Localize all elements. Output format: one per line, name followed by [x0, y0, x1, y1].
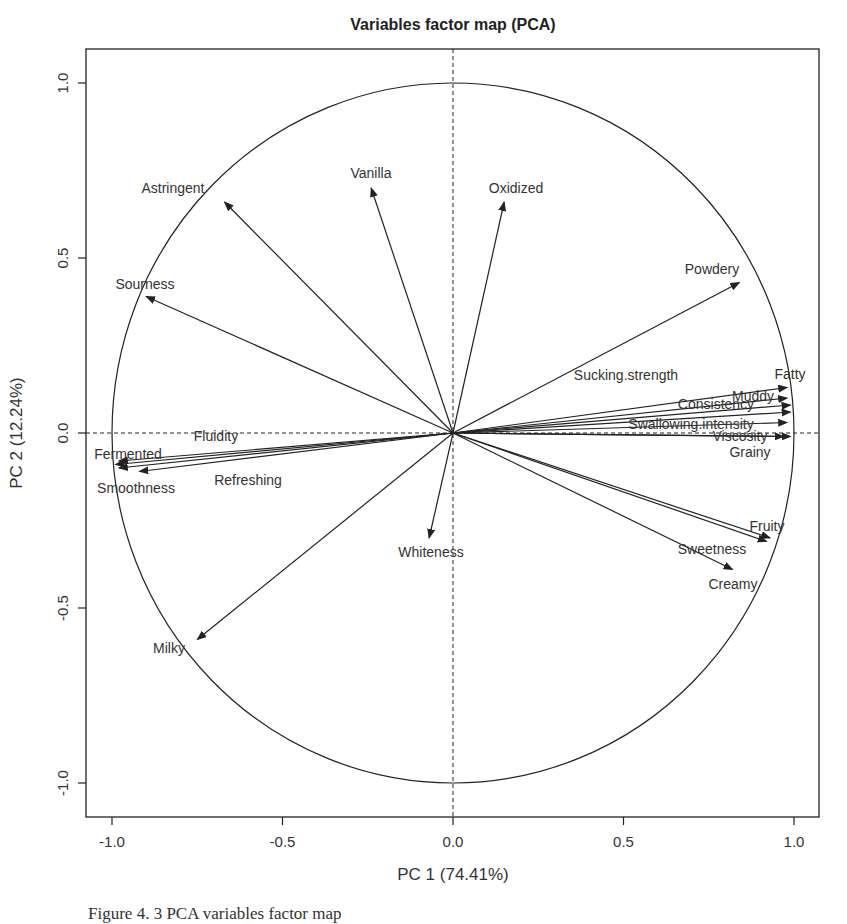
label-sweetness: Sweetness: [678, 541, 746, 557]
label-sourness: Sourness: [115, 276, 174, 292]
arrow-fruity: [453, 433, 770, 538]
label-grainy: Grainy: [729, 444, 770, 460]
label-sucking-strength: Sucking.strength: [574, 367, 678, 383]
y-axis-label: PC 2 (12.24%): [7, 377, 26, 489]
label-astringent: Astringent: [141, 180, 204, 196]
arrow-astringent: [225, 202, 453, 433]
label-fermented: Fermented: [94, 446, 162, 462]
x-tick-label: 1.0: [784, 833, 805, 850]
label-creamy: Creamy: [708, 576, 757, 592]
arrow-refreshing: [139, 433, 453, 472]
arrow-sweetness: [453, 433, 767, 542]
label-vanilla: Vanilla: [351, 165, 392, 181]
x-axis-label: PC 1 (74.41%): [397, 865, 509, 884]
variable-labels: AstringentVanillaOxidizedPowderySourness…: [94, 165, 805, 656]
figure-caption: Figure 4. 3 PCA variables factor map: [88, 904, 342, 924]
label-refreshing: Refreshing: [214, 472, 282, 488]
arrow-milky: [197, 433, 453, 640]
label-powdery: Powdery: [685, 261, 739, 277]
label-fruity: Fruity: [750, 518, 785, 534]
y-tick-label: 0.5: [54, 248, 71, 269]
y-tick-label: 0.0: [54, 423, 71, 444]
x-tick-label: 0.0: [443, 833, 464, 850]
arrow-sourness: [146, 297, 453, 434]
label-smoothness: Smoothness: [97, 480, 175, 496]
x-tick-label: -1.0: [99, 833, 125, 850]
chart-title: Variables factor map (PCA): [350, 16, 555, 33]
label-oxidized: Oxidized: [489, 180, 543, 196]
x-tick-label: 0.5: [613, 833, 634, 850]
label-whiteness: Whiteness: [398, 544, 463, 560]
arrow-vanilla: [371, 188, 453, 433]
x-tick-label: -0.5: [270, 833, 296, 850]
y-tick-label: -1.0: [54, 770, 71, 796]
y-tick-label: -0.5: [54, 595, 71, 621]
label-milky: Milky: [153, 640, 185, 656]
label-consistency: Consistency: [678, 396, 754, 412]
label-fluidity: Fluidity: [194, 428, 238, 444]
arrow-smoothness: [119, 433, 453, 468]
label-fatty: Fatty: [774, 366, 805, 382]
arrow-oxidized: [453, 202, 504, 433]
y-tick-label: 1.0: [54, 73, 71, 94]
label-viscosity: Viscosity: [713, 428, 768, 444]
